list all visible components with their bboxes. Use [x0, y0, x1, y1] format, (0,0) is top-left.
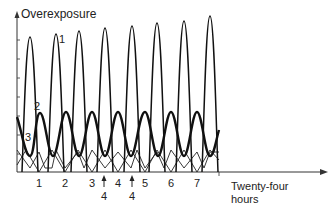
y-axis-label: Overexposure [21, 8, 96, 20]
arrow-annotation-2 [130, 175, 135, 187]
x-axis-label: Twenty-four hours [231, 180, 311, 206]
x-tick-2: 2 [62, 177, 68, 189]
x-tick-7: 7 [194, 177, 200, 189]
x-tick-5: 5 [142, 177, 148, 189]
curve-1-label: 1 [59, 33, 65, 45]
arrow-label-2: 4 [129, 190, 135, 202]
curve-3-label: 3 [25, 131, 31, 143]
curve-2 [17, 112, 219, 156]
x-tick-3: 3 [89, 177, 95, 189]
arrow-annotation-1 [102, 175, 107, 187]
y-axis [15, 11, 21, 172]
curve-2-label: 2 [34, 100, 40, 112]
x-tick-6: 6 [168, 177, 174, 189]
x-tick-4: 4 [115, 177, 121, 189]
arrow-label-1: 4 [101, 190, 107, 202]
curve-3 [17, 150, 219, 168]
x-tick-1: 1 [36, 177, 42, 189]
